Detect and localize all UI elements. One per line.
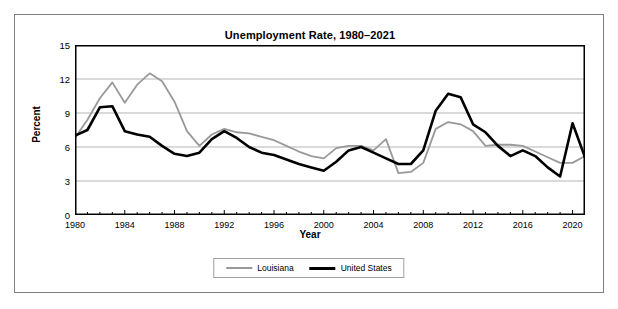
y-tick-label: 15: [59, 40, 70, 51]
y-tick-label: 6: [65, 142, 70, 153]
legend-label-louisiana: Louisiana: [257, 263, 293, 273]
chart-figure: Unemployment Rate, 1980–2021 Percent 036…: [14, 14, 604, 293]
chart-legend: Louisiana United States: [213, 258, 404, 278]
chart-title: Unemployment Rate, 1980–2021: [15, 29, 605, 41]
y-tick-label: 0: [65, 210, 70, 221]
series-lines: [75, 73, 585, 176]
y-tick-label: 9: [65, 108, 70, 119]
y-axis-label: Percent: [31, 80, 42, 170]
legend-item-louisiana: Louisiana: [226, 263, 293, 273]
legend-label-united-states: United States: [341, 263, 392, 273]
series-line: [75, 94, 585, 177]
x-axis-label: Year: [15, 229, 605, 240]
series-plot: [75, 45, 585, 215]
legend-item-united-states: United States: [310, 263, 392, 273]
y-tick-label: 3: [65, 176, 70, 187]
series-line: [75, 73, 585, 173]
plot-area: 03691215 1980198419881992199620002004200…: [75, 45, 585, 215]
axis-frame: [76, 46, 585, 215]
legend-swatch-united-states: [310, 267, 336, 270]
legend-swatch-louisiana: [226, 267, 252, 269]
y-tick-label: 12: [59, 74, 70, 85]
